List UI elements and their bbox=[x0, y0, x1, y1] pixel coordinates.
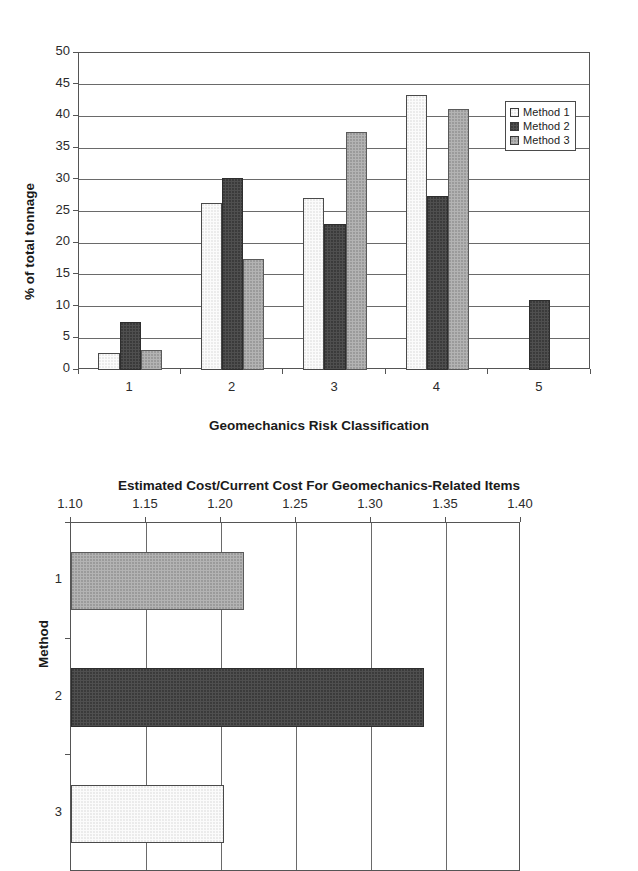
bar-method-3-class-4 bbox=[448, 109, 469, 370]
y-tick-label: 35 bbox=[36, 138, 70, 153]
y-tick-label: 3 bbox=[44, 804, 62, 819]
y-tick-mark bbox=[65, 522, 70, 523]
bar-method-1-class-1 bbox=[98, 353, 119, 370]
x-tick-label: 1.40 bbox=[490, 496, 550, 511]
cost-ratio-bar-chart: Estimated Cost/Current Cost For Geomecha… bbox=[0, 440, 638, 871]
legend-label: Method 2 bbox=[523, 120, 570, 132]
x-tick-label: 4 bbox=[416, 379, 456, 394]
x-tick-mark bbox=[590, 369, 591, 374]
bar-method-2-class-1 bbox=[120, 322, 141, 370]
y-tick-label: 15 bbox=[36, 265, 70, 280]
x-tick-mark bbox=[445, 517, 446, 522]
y-tick-label: 45 bbox=[36, 75, 70, 90]
x-tick-mark bbox=[520, 517, 521, 522]
y-tick-mark bbox=[65, 638, 70, 639]
legend-item: Method 1 bbox=[510, 105, 570, 119]
x-tick-label: 5 bbox=[519, 379, 559, 394]
chart-top-x-axis-title: Geomechanics Risk Classification bbox=[0, 418, 638, 433]
y-tick-mark bbox=[73, 242, 78, 243]
legend-label: Method 1 bbox=[523, 106, 570, 118]
bar-method-3-class-3 bbox=[346, 132, 367, 370]
legend-swatch-icon bbox=[510, 136, 519, 145]
x-tick-label: 1.20 bbox=[190, 496, 250, 511]
gridline-horizontal bbox=[79, 179, 589, 180]
x-tick-label: 1 bbox=[109, 379, 149, 394]
bar-method-3 bbox=[71, 785, 224, 843]
bar-method-3-class-2 bbox=[243, 259, 264, 370]
tonnage-bar-chart: % of total tonnage Geomechanics Risk Cla… bbox=[0, 0, 638, 440]
y-tick-label: 40 bbox=[36, 106, 70, 121]
bar-method-2-class-2 bbox=[222, 178, 243, 370]
chart-top-legend: Method 1Method 2Method 3 bbox=[505, 101, 576, 151]
x-tick-label: 1.10 bbox=[40, 496, 100, 511]
x-tick-label: 2 bbox=[212, 379, 252, 394]
y-tick-label: 0 bbox=[36, 360, 70, 375]
y-tick-mark bbox=[65, 754, 70, 755]
y-tick-label: 20 bbox=[36, 233, 70, 248]
bar-method-2-class-4 bbox=[427, 196, 448, 370]
x-tick-mark bbox=[282, 369, 283, 374]
chart-top-plot-area bbox=[78, 52, 590, 369]
y-tick-label: 10 bbox=[36, 297, 70, 312]
gridline-vertical bbox=[446, 523, 447, 870]
x-tick-mark bbox=[145, 517, 146, 522]
y-tick-mark bbox=[73, 83, 78, 84]
x-tick-label: 3 bbox=[314, 379, 354, 394]
y-tick-mark bbox=[73, 337, 78, 338]
chart-top-y-axis-title: % of total tonnage bbox=[22, 183, 37, 300]
y-tick-mark bbox=[73, 178, 78, 179]
gridline-horizontal bbox=[79, 84, 589, 85]
bar-method-1 bbox=[71, 552, 244, 610]
gridline-horizontal bbox=[79, 211, 589, 212]
legend-item: Method 2 bbox=[510, 119, 570, 133]
x-tick-mark bbox=[487, 369, 488, 374]
y-tick-mark bbox=[73, 115, 78, 116]
y-tick-mark bbox=[73, 52, 78, 53]
bar-method-1-class-3 bbox=[303, 198, 324, 370]
bar-method-1-class-4 bbox=[406, 95, 427, 370]
x-tick-mark bbox=[78, 369, 79, 374]
bar-method-3-class-1 bbox=[141, 350, 162, 370]
x-tick-mark bbox=[220, 517, 221, 522]
x-tick-mark bbox=[385, 369, 386, 374]
y-tick-label: 25 bbox=[36, 202, 70, 217]
legend-label: Method 3 bbox=[523, 134, 570, 146]
x-tick-label: 1.35 bbox=[415, 496, 475, 511]
x-tick-mark bbox=[370, 517, 371, 522]
x-tick-mark bbox=[180, 369, 181, 374]
y-tick-mark bbox=[73, 305, 78, 306]
y-tick-label: 5 bbox=[36, 328, 70, 343]
x-tick-mark bbox=[295, 517, 296, 522]
x-tick-label: 1.15 bbox=[115, 496, 175, 511]
y-tick-label: 2 bbox=[44, 688, 62, 703]
x-tick-label: 1.25 bbox=[265, 496, 325, 511]
y-tick-label: 30 bbox=[36, 170, 70, 185]
legend-item: Method 3 bbox=[510, 133, 570, 147]
x-tick-label: 1.30 bbox=[340, 496, 400, 511]
chart-bottom-title: Estimated Cost/Current Cost For Geomecha… bbox=[0, 478, 638, 493]
y-tick-mark bbox=[73, 147, 78, 148]
y-tick-label: 50 bbox=[36, 43, 70, 58]
legend-swatch-icon bbox=[510, 108, 519, 117]
chart-bottom-y-axis-title: Method bbox=[36, 620, 51, 668]
bar-method-2-class-5 bbox=[529, 300, 550, 370]
chart-bottom-plot-area bbox=[70, 522, 520, 871]
y-tick-label: 1 bbox=[44, 571, 62, 586]
legend-swatch-icon bbox=[510, 122, 519, 131]
bar-method-2 bbox=[71, 668, 424, 726]
y-tick-mark bbox=[73, 273, 78, 274]
y-tick-mark bbox=[73, 210, 78, 211]
bar-method-2-class-3 bbox=[324, 224, 345, 370]
bar-method-1-class-2 bbox=[201, 203, 222, 370]
